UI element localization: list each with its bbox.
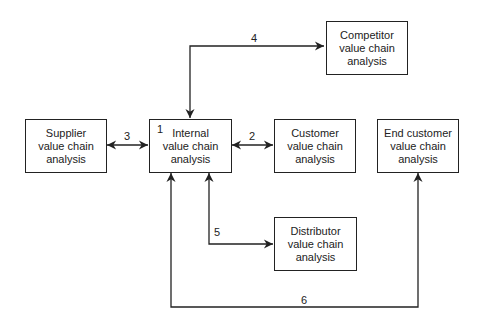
distributor-label: Distributor value chain analysis (288, 225, 344, 264)
internal-label: Internal value chain analysis (163, 127, 219, 166)
link-label-2: 2 (249, 131, 255, 142)
distributor-box: Distributor value chain analysis (274, 217, 357, 271)
link-label-3: 3 (124, 131, 130, 142)
link-label-4: 4 (251, 33, 257, 44)
internal-number: 1 (157, 124, 163, 135)
competitor-box: Competitor value chain analysis (326, 21, 408, 75)
link-label-6: 6 (301, 295, 307, 306)
customer-label: Customer value chain analysis (287, 127, 343, 166)
supplier-box: Supplier value chain analysis (25, 119, 107, 173)
end-customer-box: End customer value chain analysis (377, 119, 459, 173)
end-customer-label: End customer value chain analysis (384, 127, 452, 166)
competitor-label: Competitor value chain analysis (339, 29, 395, 68)
supplier-label: Supplier value chain analysis (38, 127, 94, 166)
customer-box: Customer value chain analysis (274, 119, 356, 173)
link-label-5: 5 (214, 227, 220, 238)
